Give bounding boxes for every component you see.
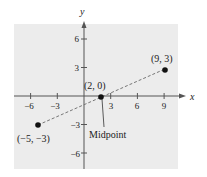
y-tick-label: −3	[70, 120, 80, 130]
y-tick-label: 3	[75, 63, 80, 73]
midpoint-chart: x y −6 −3 3 6 9 6 3 −3	[0, 0, 207, 177]
y-tick-label: −6	[70, 149, 80, 159]
x-tick-label: −6	[24, 101, 34, 111]
point-endpoint-1	[35, 122, 41, 128]
point-label-endpoint-1: (−5, −3)	[17, 133, 50, 145]
x-tick-label: 6	[135, 101, 140, 111]
x-axis-label: x	[189, 91, 195, 102]
point-endpoint-2	[162, 67, 168, 73]
point-label-endpoint-2: (9, 3)	[151, 53, 173, 65]
midpoint-annotation: Midpoint	[89, 129, 126, 140]
point-label-midpoint: (2, 0)	[84, 80, 106, 92]
point-midpoint	[98, 94, 104, 100]
x-tick-label: 3	[109, 101, 114, 111]
x-axis-arrow-icon	[179, 94, 186, 99]
x-tick-label: −3	[50, 101, 60, 111]
y-axis-label: y	[79, 6, 85, 17]
y-tick-label: 6	[75, 34, 80, 44]
chart-svg: x y −6 −3 3 6 9 6 3 −3	[0, 0, 207, 177]
x-tick-label: 9	[162, 101, 167, 111]
